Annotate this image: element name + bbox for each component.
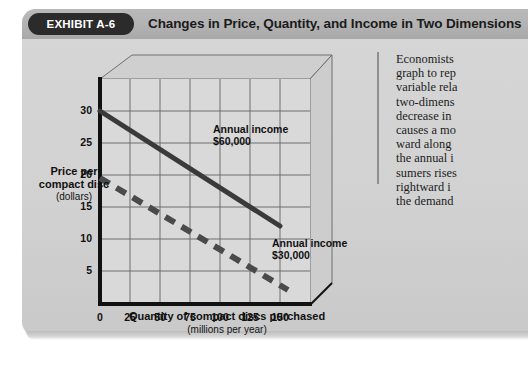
exhibit-badge: EXHIBIT A-6: [28, 13, 134, 35]
note-line-4: two-dimens: [396, 95, 528, 109]
y-tick-30: 30: [66, 104, 92, 116]
annotation-30000-line1: Annual income: [272, 237, 347, 249]
note-line-10: rightward i: [396, 180, 528, 194]
note-line-1: Economists: [396, 52, 528, 66]
annotation-60000-line1: Annual income: [213, 123, 288, 135]
chart-top-face: [100, 55, 332, 79]
y-tick-10: 10: [66, 232, 92, 244]
x-axis-title-sub: (millions per year): [187, 324, 266, 335]
note-line-11: the demand: [396, 194, 528, 208]
chart-y-axis-title: Price per compact disc (dollars): [28, 165, 120, 204]
note-line-8: the annual i: [396, 151, 528, 165]
annotation-30000-line2: $30,000: [272, 249, 310, 261]
note-line-9: sumers rises: [396, 166, 528, 180]
sidebar-note: Economists graph to rep variable rela tw…: [396, 52, 528, 208]
chart-right-face: [310, 55, 332, 305]
note-line-7: ward along: [396, 137, 528, 151]
annotation-60000-line2: $60,000: [213, 135, 251, 147]
exhibit-figure: EXHIBIT A-6 Changes in Price, Quantity, …: [0, 0, 528, 377]
note-line-5: decrease in: [396, 109, 528, 123]
annotation-income-30000: Annual income $30,000: [272, 238, 347, 261]
chart-x-axis-title: Quantity of compact discs purchased (mil…: [102, 310, 352, 336]
sidebar-divider: [377, 52, 379, 184]
note-line-2: graph to rep: [396, 66, 528, 80]
exhibit-badge-label: EXHIBIT A-6: [47, 18, 116, 30]
y-tick-25: 25: [66, 136, 92, 148]
annotation-income-60000: Annual income $60,000: [213, 124, 288, 147]
y-axis-title-sub: (dollars): [56, 191, 92, 202]
y-axis-title-main: Price per compact disc: [39, 165, 109, 190]
note-line-6: causes a mo: [396, 123, 528, 137]
note-line-3: variable rela: [396, 80, 528, 94]
chart-area: 30 25 20 15 10 5 0 25 50 75 100 125 150 …: [22, 39, 372, 336]
y-tick-5: 5: [66, 264, 92, 276]
x-axis-title-main: Quantity of compact discs purchased: [129, 310, 325, 322]
exhibit-title: Changes in Price, Quantity, and Income i…: [148, 16, 521, 31]
